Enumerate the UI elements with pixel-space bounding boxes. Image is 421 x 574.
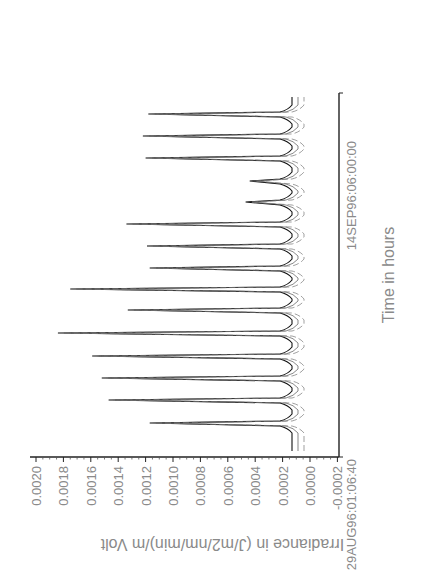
- irradiance-trace: [58, 97, 292, 451]
- value-tick-label: 0.0000: [303, 466, 318, 506]
- irradiance-axis-title: Irradiance in (J/m2/nm/min)/m Volt: [100, 536, 344, 553]
- value-tick-label: 0.0004: [248, 466, 263, 506]
- value-tick-label: 0.0020: [29, 466, 44, 506]
- time-axis-title: Time in hours: [380, 227, 397, 323]
- value-axis-ticks: 0.00200.00180.00160.00140.00120.00100.00…: [29, 457, 345, 510]
- value-tick-label: 0.0010: [166, 466, 181, 506]
- chart-canvas: 0.00200.00180.00160.00140.00120.00100.00…: [0, 0, 421, 574]
- value-tick-label: 0.0006: [221, 466, 236, 506]
- value-tick-label: 0.0018: [56, 466, 71, 506]
- value-tick-label: 0.0008: [193, 466, 208, 506]
- value-tick-label: 0.0014: [111, 466, 126, 506]
- irradiance-chart: 0.00200.00180.00160.00140.00120.00100.00…: [0, 0, 421, 574]
- value-tick-label: 0.0012: [139, 466, 154, 506]
- data-traces: [58, 97, 304, 451]
- time-start-label: 29AUG96:01:06:40: [344, 459, 359, 570]
- value-tick-label: 0.0016: [84, 466, 99, 506]
- value-tick-label: 0.0002: [276, 466, 291, 506]
- time-end-label: 14SEP96:06:00:00: [344, 141, 359, 250]
